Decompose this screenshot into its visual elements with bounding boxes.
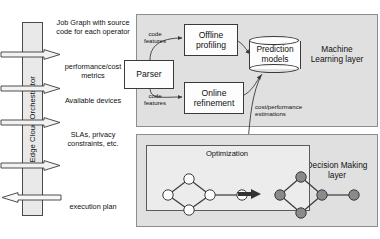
graph-node (317, 190, 327, 200)
graph-node (205, 190, 215, 200)
flow-label-perf-metrics: performance/cost metrics (54, 62, 132, 80)
machine-learning-layer-label: Machine Learning layer (306, 44, 368, 64)
graph-node (163, 190, 173, 200)
graph-node (349, 190, 359, 200)
cylinder-bottom (249, 64, 299, 73)
offline-profiling-box: Offline profiling (184, 24, 238, 56)
flow-label-devices: Available devices (54, 96, 132, 105)
flow-label-execution-plan: execution plan (54, 202, 132, 211)
graph-node (275, 190, 285, 200)
edge-label-cost-performance: cost/performance estimations (255, 103, 325, 118)
flow-label-job-graph: Job Graph with source code for each oper… (54, 18, 132, 36)
flow-arrow-perf-metrics (0, 83, 62, 94)
transform-arrow-icon (238, 188, 262, 200)
graph-node (296, 208, 306, 218)
flow-arrow-job-graph (0, 49, 62, 60)
flow-label-slas: SLAs, privacy constraints, etc. (54, 130, 132, 148)
prediction-models-label: Prediction models (249, 44, 301, 64)
optimization-title: Optimization (146, 149, 308, 158)
job-graph-after (268, 163, 368, 229)
online-refinement-box: Online refinement (184, 82, 244, 114)
flow-arrow-slas (0, 160, 62, 171)
graph-node (296, 172, 306, 182)
graph-node (184, 174, 194, 184)
parser-box: Parser (124, 60, 174, 89)
flow-arrow-execution-plan (0, 192, 62, 203)
graph-node (184, 205, 194, 215)
prediction-models-cylinder: Prediction models (249, 36, 301, 74)
flow-arrow-devices (0, 117, 62, 128)
architecture-diagram: Edge Cloud Orchestrator Job Graph with s… (0, 0, 380, 239)
edge-label-code-features-bottom: code features (139, 92, 171, 107)
edge-label-code-features-top: code features (139, 30, 171, 45)
